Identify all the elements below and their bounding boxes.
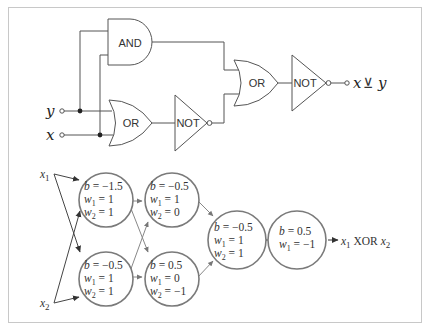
- x-branch-wire: [100, 55, 108, 135]
- junction-dot-y: [78, 109, 83, 114]
- output-label: x ⊻ y: [353, 74, 387, 92]
- diagram-canvas: AND OR NOT OR NOT y x x ⊻ y: [0, 0, 433, 329]
- y-branch-wire: [80, 31, 108, 111]
- input-y-wire: [60, 109, 112, 113]
- input-y-label: y: [45, 102, 55, 120]
- and-gate-label: AND: [118, 37, 141, 49]
- xor-symbol: ⊻: [363, 75, 373, 91]
- and-output-wire: [152, 42, 242, 70]
- junction-dot-x: [98, 133, 103, 138]
- not-gate-bottom-label: NOT: [176, 117, 200, 129]
- input-x-label: x: [46, 126, 55, 144]
- neuron-6-params: b = 0.5w1 = −1: [279, 225, 315, 253]
- or-gate-top-label: OR: [249, 77, 266, 89]
- nn-input-x2: x2: [39, 297, 50, 312]
- output-terminal: [345, 81, 349, 85]
- output-y: y: [377, 74, 387, 92]
- not-gate-top-label: NOT: [293, 77, 317, 89]
- output-x: x: [353, 74, 362, 92]
- nn-input-x1: x1: [39, 168, 50, 183]
- nn-output-label: x1 XOR x2: [340, 235, 390, 250]
- or-gate-bottom-label: OR: [123, 117, 140, 129]
- input-x-wire: [60, 133, 115, 137]
